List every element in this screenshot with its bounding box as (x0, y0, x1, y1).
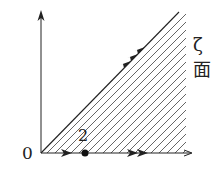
point-2-marker (82, 150, 89, 157)
plane-label: ζ 面 (193, 34, 221, 81)
boundary-ray (41, 12, 179, 153)
hatched-region (40, 10, 221, 160)
imaginary-axis (38, 10, 45, 153)
origin-label: 0 (22, 143, 33, 163)
triple-arrow-icon (120, 47, 145, 68)
point-label: 2 (78, 126, 88, 145)
zeta-plane-diagram (0, 0, 221, 178)
